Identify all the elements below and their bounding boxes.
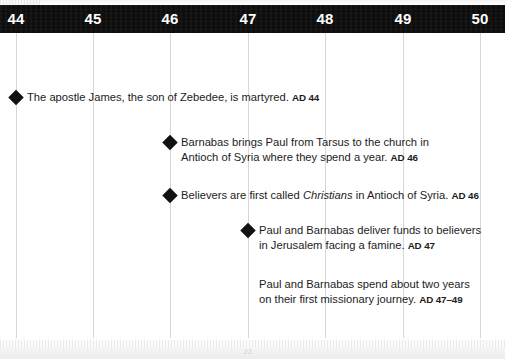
event-text-segment: Barnabas brings Paul from Tarsus to the …: [181, 136, 429, 148]
event-year-label: AD 47: [408, 240, 435, 251]
event-text-segment: on their first missionary journey.: [259, 293, 419, 305]
event-text-segment: Paul and Barnabas deliver funds to belie…: [259, 224, 481, 236]
gridline-46: [170, 33, 171, 338]
event-text-emphasis: Christians: [303, 189, 353, 201]
gridline-47: [248, 33, 249, 338]
page-folio-number: 22: [244, 347, 253, 356]
event-text-line: in Jerusalem facing a famine. AD 47: [259, 238, 481, 253]
event-text: The apostle James, the son of Zebedee, i…: [27, 90, 319, 105]
timeline-year-axis-band: 44454647484950: [0, 5, 505, 33]
event-text-line: Paul and Barnabas deliver funds to belie…: [259, 223, 481, 238]
event-text-line: Barnabas brings Paul from Tarsus to the …: [181, 135, 429, 150]
year-label-48: 48: [316, 5, 333, 33]
event-text-line: The apostle James, the son of Zebedee, i…: [27, 90, 319, 105]
gridline-44: [16, 33, 17, 338]
year-label-46: 46: [161, 5, 178, 33]
event-text-segment: Antioch of Syria where they spend a year…: [181, 151, 391, 163]
event-text-segment: Paul and Barnabas spend about two years: [259, 278, 470, 290]
year-label-45: 45: [84, 5, 101, 33]
event-text: Believers are first called Christians in…: [181, 188, 479, 203]
year-label-44: 44: [7, 5, 24, 33]
event-text-segment: in Jerusalem facing a famine.: [259, 239, 408, 251]
gridline-45: [93, 33, 94, 338]
event-year-label: AD 46: [391, 152, 418, 163]
year-label-50: 50: [471, 5, 488, 33]
event-year-label: AD 46: [452, 190, 479, 201]
event-text: Barnabas brings Paul from Tarsus to the …: [181, 135, 429, 166]
event-text-line: on their first missionary journey. AD 47…: [259, 292, 470, 307]
year-label-49: 49: [394, 5, 411, 33]
event-text-line: Paul and Barnabas spend about two years: [259, 277, 470, 292]
event-text-segment: Believers are first called: [181, 189, 303, 201]
event-text: Paul and Barnabas deliver funds to belie…: [259, 223, 481, 254]
event-year-label: AD 47–49: [419, 294, 462, 305]
page-scan-bottom-edge: 22: [0, 338, 505, 359]
event-year-label: AD 44: [292, 92, 319, 103]
timeline-page: 44454647484950 The apostle James, the so…: [0, 0, 505, 359]
event-text: Paul and Barnabas spend about two yearso…: [259, 277, 470, 308]
event-text-line: Antioch of Syria where they spend a year…: [181, 150, 429, 165]
event-text-line: Believers are first called Christians in…: [181, 188, 479, 203]
event-text-segment: The apostle James, the son of Zebedee, i…: [27, 91, 292, 103]
gridline-50: [480, 33, 481, 338]
year-label-47: 47: [239, 5, 256, 33]
event-text-segment: in Antioch of Syria.: [353, 189, 452, 201]
